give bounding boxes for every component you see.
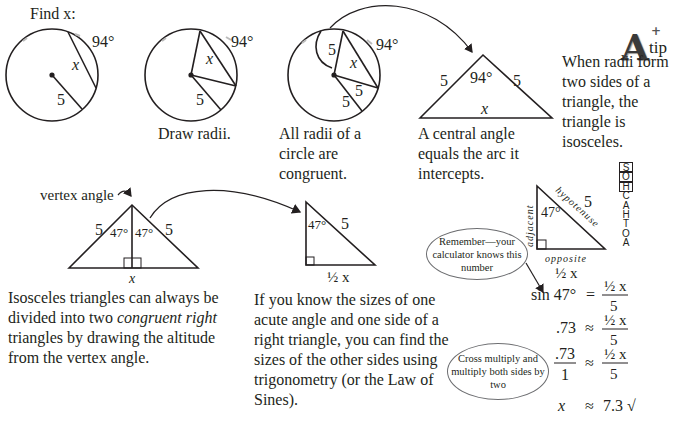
radius-label-3a: 5 xyxy=(328,41,336,58)
eq1-lhs: sin 47° xyxy=(531,286,576,303)
chord-label-3: x xyxy=(349,54,357,71)
eq4-rhs: 7.3 √ xyxy=(603,397,636,414)
eq3-num: ½ x xyxy=(604,346,627,362)
eq3-lhs-num: .73 xyxy=(555,345,575,362)
eq3-lhs-den: 1 xyxy=(561,366,569,383)
radius-label-2: 5 xyxy=(196,91,204,108)
caption-step4: A central angle equals the arc it interc… xyxy=(418,124,553,184)
caption-step3: All radii of a circle are congruent. xyxy=(279,124,399,184)
arc-label-3: 94° xyxy=(376,36,398,53)
rt-angle-label: 47° xyxy=(308,217,326,232)
iso-caption-part2: triangles by drawing the altitude from t… xyxy=(8,329,215,366)
side-label-4a: 5 xyxy=(440,72,448,89)
iso-angle-left: 47° xyxy=(110,225,128,240)
geometry-tip-figure: 94° x 5 94° x 5 94° x 5 5 5 94° 5 5 x ve… xyxy=(0,0,690,422)
eq1-num: ½ x xyxy=(604,278,627,294)
hypotenuse-label: hypotenuse xyxy=(554,184,602,229)
calculator-note-text: Remember—your calculator knows this numb… xyxy=(427,235,527,274)
eq2-op: ≈ xyxy=(585,319,594,336)
arc-label-2: 94° xyxy=(231,33,253,50)
eq2-num: ½ x xyxy=(604,312,627,328)
eq4-op: ≈ xyxy=(585,397,594,414)
rt-base-label: ½ x xyxy=(327,269,350,285)
plus-icon: + xyxy=(651,24,661,38)
eq3-den: 5 xyxy=(610,366,618,382)
right-triangle xyxy=(306,202,375,265)
radius-label-3b: 5 xyxy=(355,82,363,99)
lt-base-value: ½ x xyxy=(555,265,578,281)
side-label-4b: 5 xyxy=(513,72,521,89)
iso-side-left: 5 xyxy=(95,221,103,238)
central-angle-label: 94° xyxy=(470,69,492,86)
mnemonic-letter: A xyxy=(620,238,632,247)
caption-step2: Draw radii. xyxy=(158,124,231,144)
tip-text: When radii form two sides of a triangle,… xyxy=(562,52,690,152)
eq4-lhs: x xyxy=(557,397,565,414)
iso-caption-emphasis: congruent right xyxy=(117,309,217,326)
base-label-4: x xyxy=(480,100,488,117)
isosceles-caption: Isosceles triangles can always be divide… xyxy=(8,288,248,368)
rt-hyp-label: 5 xyxy=(341,215,349,232)
eq2-lhs: .73 xyxy=(556,319,576,336)
lt-angle-label: 47° xyxy=(541,205,561,220)
find-x-title: Find x: xyxy=(30,4,76,24)
iso-angle-right: 47° xyxy=(135,225,153,240)
opposite-label: opposite xyxy=(545,253,587,264)
circle-step1 xyxy=(6,29,98,121)
eq1-op: = xyxy=(586,286,595,303)
cross-multiply-bubble: Cross multiply and multiply both sides b… xyxy=(447,343,549,400)
chord-label-1: x xyxy=(71,56,79,73)
cross-multiply-text: Cross multiply and multiply both sides b… xyxy=(448,352,548,391)
radius-label-1: 5 xyxy=(57,91,65,108)
eq3-op: ≈ xyxy=(585,354,594,371)
iso-base-label: x xyxy=(128,271,136,286)
chord-label-2: x xyxy=(205,50,213,67)
trig-caption: If you know the sizes of one acute angle… xyxy=(254,290,454,410)
iso-side-right: 5 xyxy=(165,221,173,238)
vertex-angle-label: vertex angle xyxy=(40,187,114,203)
radius-label-3c: 5 xyxy=(342,93,350,110)
sohcahtoa-mnemonic: S O H C A H T O A xyxy=(620,163,632,248)
calculator-note-bubble: Remember—your calculator knows this numb… xyxy=(426,228,528,280)
circle-step2 xyxy=(145,29,237,121)
arc-label-1: 94° xyxy=(92,33,114,50)
